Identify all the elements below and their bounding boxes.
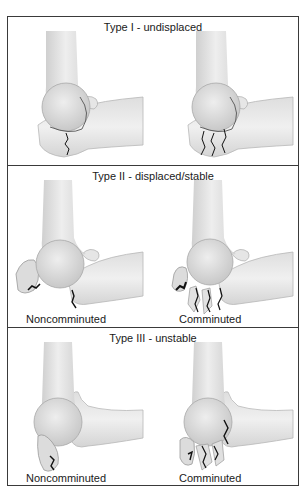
elbow-type3-right [180,342,293,470]
label-noncomminuted: Noncomminuted [26,313,106,325]
panel-type-3: Type III - unstable [8,327,298,486]
fracture-classification-figure: Type I - undisplaced [7,16,299,486]
elbow-type3-left [34,342,143,471]
elbow-type1-right [188,31,293,157]
elbow-illustrations [8,17,298,165]
label-noncomminuted: Noncomminuted [26,472,106,484]
elbow-type2-left [16,180,143,308]
panel-type-1: Type I - undisplaced [8,17,298,165]
panel-type-2: Type II - displaced/stable [8,165,298,327]
label-comminuted: Comminuted [179,472,241,484]
elbow-illustrations [8,328,298,486]
elbow-type1-left [38,31,143,157]
elbow-illustrations [8,166,298,327]
label-comminuted: Comminuted [179,313,241,325]
elbow-type2-right [172,180,293,314]
